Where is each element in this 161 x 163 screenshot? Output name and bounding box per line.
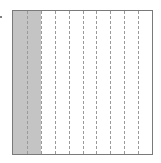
- column-divider: [83, 11, 84, 154]
- column-divider: [41, 11, 42, 154]
- column-divider: [96, 11, 97, 154]
- fraction-area-model: [12, 10, 153, 155]
- column-divider: [124, 11, 125, 154]
- column-divider: [27, 11, 28, 154]
- stray-mark: [0, 16, 2, 18]
- column-divider: [138, 11, 139, 154]
- column-divider: [69, 11, 70, 154]
- column-divider: [110, 11, 111, 154]
- column-divider: [55, 11, 56, 154]
